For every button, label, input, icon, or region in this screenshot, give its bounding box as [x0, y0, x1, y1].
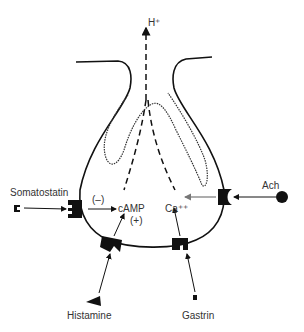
acid-secretion-path — [124, 28, 175, 190]
histamine-label: Histamine — [67, 311, 111, 321]
histamine-arrow — [99, 254, 110, 293]
somatostatin-receptor-icon — [68, 200, 82, 218]
inhibit-label: (–) — [92, 195, 104, 205]
somatostatin-arrow — [24, 208, 66, 209]
ach-label: Ach — [262, 181, 279, 191]
gastrin-arrow — [187, 254, 195, 292]
ach-receptor-icon — [218, 189, 232, 205]
gastrin-ligand-icon — [193, 295, 197, 300]
gastrin-receptor-icon — [172, 238, 188, 250]
parietal-cell-diagram — [0, 0, 304, 332]
histamine-receptor-icon — [100, 236, 122, 252]
ach-ligand-icon — [276, 191, 288, 203]
histamine-ligand-icon — [86, 296, 101, 306]
camp-label: cAMP — [118, 204, 145, 214]
gastrin-label: Gastrin — [182, 311, 214, 321]
calcium-label: Ca⁺⁺ — [165, 204, 188, 214]
h-plus-label: H⁺ — [148, 18, 160, 28]
histamine-stimulate-arrow — [114, 214, 124, 236]
stimulate-label: (+) — [130, 216, 143, 226]
somatostatin-label: Somatostatin — [10, 188, 68, 198]
somatostatin-ligand-icon — [14, 205, 20, 212]
